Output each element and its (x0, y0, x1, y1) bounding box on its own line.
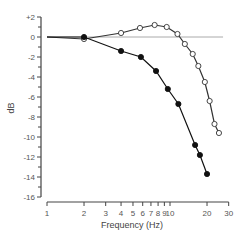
open-circle-marker (137, 25, 142, 30)
x-axis-title: Frequency (Hz) (101, 220, 163, 230)
open-circle-marker (175, 31, 180, 36)
x-tick-label: 8 (156, 209, 161, 218)
y-axis-title: dB (6, 102, 16, 113)
y-tick-label: -4 (28, 73, 36, 82)
open-circle-marker (202, 79, 207, 84)
open-circle-marker (118, 30, 123, 35)
open-circle-marker (212, 121, 217, 126)
x-axis: 123456789102030 (45, 202, 234, 218)
y-tick-label: -2 (28, 53, 36, 62)
filled-circle-marker (165, 86, 170, 91)
y-tick-label: -8 (28, 113, 36, 122)
x-tick-label: 7 (149, 209, 154, 218)
filled-circle-marker (193, 142, 198, 147)
y-tick-label: -10 (23, 133, 35, 142)
frequency-response-chart: +20-2-4-6-8-10-12-14-16 123456789102030 … (0, 0, 243, 240)
y-tick-label: -6 (28, 93, 36, 102)
y-tick-label: -16 (23, 193, 35, 202)
x-tick-label: 4 (119, 209, 124, 218)
x-tick-label: 30 (224, 209, 233, 218)
series-line (47, 25, 219, 133)
x-tick-label: 5 (131, 209, 136, 218)
filled-circle-marker (81, 34, 86, 39)
y-axis: +20-2-4-6-8-10-12-14-16 (23, 13, 41, 202)
series-open-circles (47, 22, 222, 135)
y-tick-label: -12 (23, 153, 35, 162)
x-tick-label: 2 (82, 209, 87, 218)
filled-circle-marker (204, 171, 209, 176)
filled-circle-marker (138, 54, 143, 59)
filled-circle-marker (118, 48, 123, 53)
open-circle-marker (164, 24, 169, 29)
open-circle-marker (207, 98, 212, 103)
open-circle-marker (152, 22, 157, 27)
series-filled-circles (47, 34, 210, 176)
series-line (47, 37, 207, 174)
y-tick-label: -14 (23, 173, 35, 182)
filled-circle-marker (197, 152, 202, 157)
x-tick-label: 1 (45, 209, 50, 218)
open-circle-marker (190, 51, 195, 56)
y-tick-label: +2 (26, 13, 36, 22)
x-tick-label: 20 (203, 209, 212, 218)
filled-circle-marker (153, 68, 158, 73)
x-tick-label: 6 (140, 209, 145, 218)
y-tick-label: 0 (31, 33, 36, 42)
filled-circle-marker (176, 101, 181, 106)
data-series (47, 22, 222, 176)
open-circle-marker (196, 63, 201, 68)
open-circle-marker (182, 41, 187, 46)
x-tick-label: 3 (103, 209, 108, 218)
x-tick-label: 10 (166, 209, 175, 218)
open-circle-marker (216, 130, 221, 135)
